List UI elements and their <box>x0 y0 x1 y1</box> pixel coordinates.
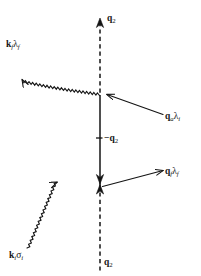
label-incoming-momentum-greek-subscript: i <box>178 115 180 122</box>
label-axis-top-subscript: 2 <box>112 17 116 24</box>
diagram-canvas: q2 −q2 q2 kfλf kiσi qaλi qfλf <box>0 0 201 276</box>
label-axis-bottom-subscript: 2 <box>109 261 113 268</box>
label-incoming-photon: kiσi <box>9 250 23 261</box>
label-incoming-photon-greek-subscript: i <box>21 254 23 261</box>
label-axis-middle-subscript: 2 <box>115 137 119 144</box>
label-axis-middle-symbol: −q <box>104 133 115 143</box>
feynman-diagram-figure: q2 −q2 q2 kfλf kiσi qaλi qfλf <box>0 0 201 276</box>
